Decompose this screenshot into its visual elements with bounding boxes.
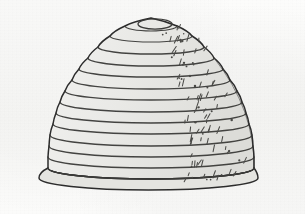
hatch-dot (181, 40, 183, 42)
hatch-stroke (195, 161, 196, 167)
hatch-dot (183, 33, 185, 35)
hatch-dot (206, 86, 208, 88)
hatch-dot (202, 133, 204, 135)
hatch-dot (210, 179, 212, 181)
beehive-skep-drawing (0, 0, 305, 214)
hatch-dot (206, 179, 208, 181)
hatch-stroke (177, 26, 178, 30)
hatch-dot (221, 174, 223, 176)
hatch-dot (191, 166, 193, 168)
hatch-stroke (217, 105, 218, 109)
hatch-dot (230, 119, 233, 122)
hatch-dot (194, 85, 196, 87)
illustration-canvas: A domed traditional straw beehive (skep)… (0, 0, 305, 214)
hatch-stroke (183, 50, 184, 55)
hatch-dot (211, 110, 213, 112)
hatch-dot (238, 159, 240, 161)
hatch-dot (181, 78, 183, 80)
hatch-dot (182, 64, 184, 66)
hatch-dot (192, 62, 194, 64)
hatch-dot (212, 177, 214, 179)
hatch-dot (194, 121, 196, 123)
hatch-dot (198, 106, 200, 108)
hatch-dot (183, 62, 185, 64)
hatch-dot (171, 56, 173, 58)
hatch-stroke (190, 127, 191, 132)
hatch-dot (193, 64, 195, 66)
hatch-dot (191, 177, 193, 179)
hatch-dot (165, 32, 167, 34)
hatch-stroke (201, 138, 202, 141)
hatch-dot (189, 75, 191, 77)
hatch-dot (186, 65, 188, 67)
hatch-stroke (225, 147, 226, 150)
hatch-dot (178, 77, 180, 79)
hatch-dot (162, 34, 164, 36)
